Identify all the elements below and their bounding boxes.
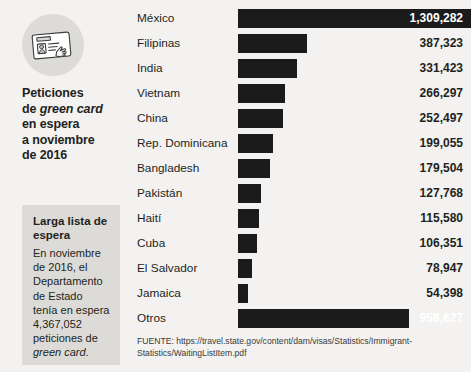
category-label: Cuba bbox=[137, 231, 233, 256]
chart-row: Rep. Dominicana199,055 bbox=[137, 131, 471, 156]
chart-row: Pakistán127,768 bbox=[137, 181, 471, 206]
bar-track: 78,947 bbox=[238, 256, 471, 281]
bar bbox=[238, 309, 409, 328]
value-label: 958,627 bbox=[420, 306, 463, 331]
callout-body-text: En noviembre de 2016, el Departamento de… bbox=[33, 247, 109, 344]
bar bbox=[238, 159, 270, 178]
bar bbox=[238, 134, 273, 153]
bar-track: 179,504 bbox=[238, 156, 471, 181]
sidebar: Peticiones de green card en espera a nov… bbox=[0, 0, 135, 372]
chart-row: Cuba106,351 bbox=[137, 231, 471, 256]
bar-track: 266,297 bbox=[238, 81, 471, 106]
value-label: 266,297 bbox=[420, 81, 463, 106]
source-note: FUENTE: https://travel.state.gov/content… bbox=[137, 336, 471, 359]
category-label: Bangladesh bbox=[137, 156, 233, 181]
bar bbox=[238, 259, 252, 278]
chart-row: China252,497 bbox=[137, 106, 471, 131]
callout-body-emphasis: green card bbox=[33, 346, 86, 358]
chart-row: Bangladesh179,504 bbox=[137, 156, 471, 181]
chart-row: Jamaica54,398 bbox=[137, 281, 471, 306]
headline-line-2-pre: de bbox=[22, 102, 40, 116]
value-label: 54,398 bbox=[426, 281, 463, 306]
bar-track: 331,423 bbox=[238, 56, 471, 81]
chart-row: Filipinas387,323 bbox=[137, 31, 471, 56]
callout-box: Larga lista de espera En noviembre de 20… bbox=[22, 205, 120, 365]
bar-track: 1,309,282 bbox=[238, 6, 471, 31]
bar bbox=[238, 59, 297, 78]
bar bbox=[238, 109, 283, 128]
category-label: China bbox=[137, 106, 233, 131]
category-label: Filipinas bbox=[137, 31, 233, 56]
bar-track: 106,351 bbox=[238, 231, 471, 256]
bar-track: 127,768 bbox=[238, 181, 471, 206]
value-label: 179,504 bbox=[420, 156, 463, 181]
bar bbox=[238, 84, 285, 103]
category-label: Jamaica bbox=[137, 281, 233, 306]
chart-row: Vietnam266,297 bbox=[137, 81, 471, 106]
value-label: 115,580 bbox=[420, 206, 463, 231]
chart-row: México1,309,282 bbox=[137, 6, 471, 31]
callout-body-period: . bbox=[86, 346, 89, 358]
value-label: 252,497 bbox=[420, 106, 463, 131]
category-label: Vietnam bbox=[137, 81, 233, 106]
bar-track: 199,055 bbox=[238, 131, 471, 156]
headline-line-4: a noviembre bbox=[22, 133, 95, 147]
value-label: 78,947 bbox=[426, 256, 463, 281]
bar-track: 115,580 bbox=[238, 206, 471, 231]
bar bbox=[238, 184, 261, 203]
green-card-id-hand-icon bbox=[22, 14, 84, 76]
category-label: Otros bbox=[137, 306, 233, 331]
bar bbox=[238, 234, 257, 253]
category-label: Haití bbox=[137, 206, 233, 231]
bar bbox=[238, 284, 248, 303]
headline-line-2-emphasis: green card bbox=[40, 102, 103, 116]
value-label: 106,351 bbox=[420, 231, 463, 256]
bar-track: 54,398 bbox=[238, 281, 471, 306]
value-label: 1,309,282 bbox=[410, 6, 463, 31]
bar bbox=[238, 34, 307, 53]
bar-track: 387,323 bbox=[238, 31, 471, 56]
category-label: India bbox=[137, 56, 233, 81]
chart-row: Haití115,580 bbox=[137, 206, 471, 231]
headline-line-3: en espera bbox=[22, 117, 79, 131]
category-label: Rep. Dominicana bbox=[137, 131, 233, 156]
category-label: Pakistán bbox=[137, 181, 233, 206]
chart-row: India331,423 bbox=[137, 56, 471, 81]
category-label: El Salvador bbox=[137, 256, 233, 281]
value-label: 199,055 bbox=[420, 131, 463, 156]
callout-body: En noviembre de 2016, el Departamento de… bbox=[33, 246, 110, 360]
chart-row: El Salvador78,947 bbox=[137, 256, 471, 281]
page-title: Peticiones de green card en espera a nov… bbox=[22, 86, 134, 164]
headline-line-1: Peticiones bbox=[22, 86, 84, 100]
value-label: 331,423 bbox=[420, 56, 463, 81]
callout-title: Larga lista de espera bbox=[33, 215, 110, 242]
headline-line-5: de 2016 bbox=[22, 148, 67, 162]
value-label: 127,768 bbox=[420, 181, 463, 206]
chart-row: Otros958,627 bbox=[137, 306, 471, 331]
category-label: México bbox=[137, 6, 233, 31]
bar bbox=[238, 209, 259, 228]
bar-track: 252,497 bbox=[238, 106, 471, 131]
bar-chart: México1,309,282Filipinas387,323India331,… bbox=[137, 0, 471, 372]
bar-track: 958,627 bbox=[238, 306, 471, 331]
value-label: 387,323 bbox=[420, 31, 463, 56]
